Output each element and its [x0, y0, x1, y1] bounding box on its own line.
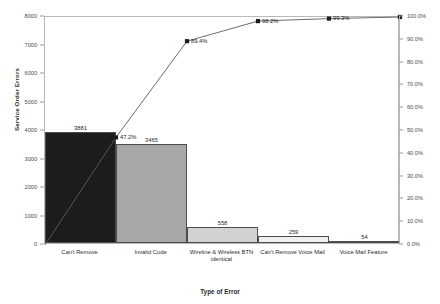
bar-value-label: 259 — [289, 229, 299, 235]
cumulative-percent-label: 98.2% — [262, 18, 278, 24]
right-axis-tick-mark — [399, 152, 403, 153]
bar-value-label: 558 — [218, 220, 228, 226]
cumulative-percent-label: 99.3% — [333, 15, 349, 21]
bar-value-label: 54 — [361, 234, 367, 240]
left-axis-tick-label: 8000 — [25, 13, 37, 19]
cumulative-marker — [256, 19, 260, 23]
right-axis-tick-label: 70.0% — [407, 81, 423, 87]
left-axis-tick-label: 6000 — [25, 70, 37, 76]
left-axis-tick-label: 7000 — [25, 42, 37, 48]
category-label: Can't Remove — [40, 249, 119, 256]
right-axis-tick-mark — [399, 175, 403, 176]
right-axis-tick-mark — [399, 61, 403, 62]
category-label: Wireline & Wireless BTN identical — [182, 249, 261, 264]
right-axis-tick-label: 10.0% — [407, 218, 423, 224]
right-axis-tick-label: 60.0% — [407, 104, 423, 110]
right-axis-tick-label: 20.0% — [407, 195, 423, 201]
pareto-chart: Service Order Errors 0100020003000400050… — [0, 0, 440, 304]
left-axis-tick-label: 4000 — [25, 127, 37, 133]
bar — [45, 132, 116, 243]
cumulative-percent-label: 47.2% — [120, 134, 136, 140]
right-axis-tick-label: 30.0% — [407, 173, 423, 179]
plot-area: 3881346555825954 47.2%89.4%98.2%99.3%100… — [44, 16, 399, 244]
right-axis-tick-mark — [399, 38, 403, 39]
right-axis-tick-mark — [399, 84, 403, 85]
right-axis-tick-label: 80.0% — [407, 59, 423, 65]
right-axis-tick-mark — [399, 130, 403, 131]
category-axis-labels: Can't RemoveInvalid CodeWireline & Wirel… — [44, 249, 399, 283]
bar — [258, 236, 329, 243]
left-axis-tick-label: 0 — [34, 241, 37, 247]
left-axis-tick-label: 2000 — [25, 184, 37, 190]
right-axis-tick-label: 40.0% — [407, 150, 423, 156]
x-axis-title: Type of Error — [120, 288, 320, 295]
right-axis-tick-mark — [399, 16, 403, 17]
bar-value-label: 3465 — [145, 137, 158, 143]
cumulative-marker — [327, 16, 331, 20]
right-axis-tick-mark — [399, 221, 403, 222]
category-label: Voice Mail Feature — [324, 249, 403, 256]
right-axis-tick-label: 50.0% — [407, 127, 423, 133]
right-axis-tick-label: 0.0% — [407, 241, 420, 247]
bar — [187, 227, 258, 243]
cumulative-marker — [185, 39, 189, 43]
left-value-axis: 010002000300040005000600070008000 — [0, 16, 44, 244]
right-axis-tick-mark — [399, 198, 403, 199]
bar — [116, 144, 187, 243]
left-axis-tick-label: 1000 — [25, 213, 37, 219]
cumulative-percent-label: 89.4% — [191, 38, 207, 44]
bar-value-label: 3881 — [74, 125, 87, 131]
category-label: Invalid Code — [111, 249, 190, 256]
right-axis-tick-label: 90.0% — [407, 36, 423, 42]
category-label: Can't Remove Voice Mail — [253, 249, 332, 256]
left-axis-tick-label: 5000 — [25, 99, 37, 105]
right-axis-tick-mark — [399, 244, 403, 245]
bar — [329, 241, 400, 243]
right-axis-tick-label: 100.0% — [407, 13, 426, 19]
right-axis-tick-mark — [399, 107, 403, 108]
left-axis-tick-label: 3000 — [25, 156, 37, 162]
right-percent-axis: 0.0%10.0%20.0%30.0%40.0%50.0%60.0%70.0%8… — [399, 16, 440, 244]
